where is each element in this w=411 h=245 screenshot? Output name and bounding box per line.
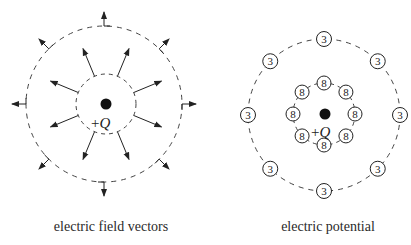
potential-value-marker: 3 bbox=[393, 108, 408, 123]
svg-text:8: 8 bbox=[352, 108, 358, 120]
right-angle-tick bbox=[155, 159, 159, 163]
svg-text:8: 8 bbox=[321, 139, 327, 151]
right-angle-tick bbox=[49, 45, 53, 49]
field-vectors-panel: +Q bbox=[12, 12, 196, 196]
potential-value-marker: 3 bbox=[317, 32, 332, 47]
svg-text:3: 3 bbox=[375, 55, 381, 67]
svg-text:3: 3 bbox=[397, 109, 403, 121]
svg-text:3: 3 bbox=[321, 33, 327, 45]
point-charge-dot bbox=[101, 99, 112, 110]
field-caption: electric field vectors bbox=[54, 219, 168, 235]
field-arrow bbox=[159, 159, 169, 169]
svg-text:3: 3 bbox=[268, 163, 274, 175]
field-arrow bbox=[39, 159, 49, 169]
field-arrow bbox=[117, 49, 128, 77]
potential-value-marker: 3 bbox=[263, 161, 278, 176]
svg-text:3: 3 bbox=[268, 55, 274, 67]
svg-text:8: 8 bbox=[299, 86, 305, 98]
svg-text:3: 3 bbox=[321, 185, 327, 197]
svg-text:3: 3 bbox=[245, 109, 251, 121]
charge-label: +Q bbox=[91, 115, 110, 131]
field-arrow bbox=[117, 132, 128, 160]
potential-value-marker: 3 bbox=[370, 54, 385, 69]
field-arrow bbox=[83, 132, 94, 160]
field-arrow bbox=[39, 39, 49, 49]
potential-value-marker: 3 bbox=[241, 108, 256, 123]
svg-text:8: 8 bbox=[299, 130, 305, 142]
potential-value-marker: 8 bbox=[295, 85, 309, 99]
potential-value-marker: 8 bbox=[317, 76, 331, 90]
charge-label: +Q bbox=[311, 124, 330, 140]
right-angle-tick bbox=[159, 49, 163, 53]
potential-value-marker: 8 bbox=[317, 138, 331, 152]
field-arrow bbox=[159, 39, 169, 49]
point-charge-dot bbox=[320, 109, 331, 120]
svg-text:3: 3 bbox=[375, 163, 381, 175]
field-arrow bbox=[134, 115, 162, 126]
potential-value-marker: 8 bbox=[286, 107, 300, 121]
potential-panel: 88888888 33333333 +Q bbox=[241, 32, 408, 199]
potential-value-marker: 8 bbox=[339, 85, 353, 99]
potential-value-marker: 3 bbox=[370, 161, 385, 176]
field-arrow bbox=[51, 115, 79, 126]
potential-value-marker: 8 bbox=[348, 107, 362, 121]
svg-text:8: 8 bbox=[343, 86, 349, 98]
potential-value-marker: 8 bbox=[339, 129, 353, 143]
potential-caption: electric potential bbox=[281, 219, 375, 235]
svg-text:8: 8 bbox=[290, 108, 296, 120]
field-arrow bbox=[83, 49, 94, 77]
diagram-canvas: +Q 88888888 33333333 +Q bbox=[0, 0, 411, 245]
field-arrow bbox=[51, 81, 79, 92]
field-arrow bbox=[134, 81, 162, 92]
right-angle-tick bbox=[45, 155, 49, 159]
potential-value-marker: 8 bbox=[295, 129, 309, 143]
potential-value-marker: 3 bbox=[317, 184, 332, 199]
svg-text:8: 8 bbox=[321, 77, 327, 89]
potential-value-marker: 3 bbox=[263, 54, 278, 69]
svg-text:8: 8 bbox=[343, 130, 349, 142]
